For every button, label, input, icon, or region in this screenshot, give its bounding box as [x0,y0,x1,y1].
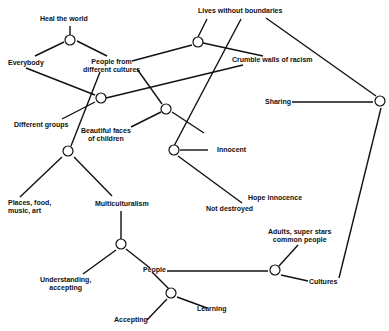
edge-junction-places [20,157,62,197]
edge-junction-everybody [35,42,64,56]
node-crumble-walls-of-racism: Crumble walls of racism [232,56,313,64]
junction-everybody [96,93,106,103]
junction-places [63,146,73,156]
edge-junction-crumble [203,43,263,56]
junction-learning [166,288,176,298]
node-accepting: Accepting [114,316,148,324]
node-different-groups: Different groups [14,121,68,129]
node-multiculturalism: Multiculturalism [95,200,149,208]
edge-junction-people-cultures [77,41,107,56]
edge-people-cultures-faces-junction [137,69,162,104]
node-lives-without-boundaries: Lives without boundaries [198,7,282,15]
edge-junction-multi [74,157,112,196]
node-people-from-different-cultures: People from different cultures [83,58,140,74]
edge-sharing-cultures [339,108,381,278]
node-beautiful-faces-of-children: Beautiful faces of children [81,127,131,143]
edge-junction-cultures [281,275,308,281]
edge-junction-accepting [147,299,167,320]
edge-junction-understanding [83,250,116,274]
edge-junction-people-cultures-2 [132,45,192,61]
node-cultures: Cultures [309,278,337,286]
node-everybody: Everybody [8,59,44,67]
edge-people-learning-junction [152,272,169,289]
node-adults-super-stars-common-people: Adults, super stars common people [268,228,331,244]
node-understanding-accepting: Understanding, accepting [40,276,91,292]
junction-people [270,265,280,275]
node-learning: Learning [197,305,227,313]
edge-lives-junction [198,19,207,37]
node-heal-the-world: Heal the world [40,15,88,23]
node-sharing: Sharing [265,98,291,106]
edge-junction-adults [279,245,298,266]
junction-heal [65,35,75,45]
node-innocent: Innocent [217,146,246,154]
node-people: People [143,266,166,274]
edge-junction-faces [131,112,161,127]
junction-multi [116,239,126,249]
node-not-destroyed: Not destroyed [206,205,253,213]
node-places-food-music-art: Places, food, music, art [8,199,51,215]
edge-junction-groups [62,102,95,119]
edge-junction-innocent-2 [172,112,204,133]
junction-innocent [169,145,179,155]
junction-faces [161,104,171,114]
node-hope-innocence: Hope innocence [248,194,302,202]
edge-lives-innocent-junction [174,19,241,146]
junction-sharing [375,96,385,106]
junction-lives [193,37,203,47]
edge-junction-hope [178,156,242,203]
